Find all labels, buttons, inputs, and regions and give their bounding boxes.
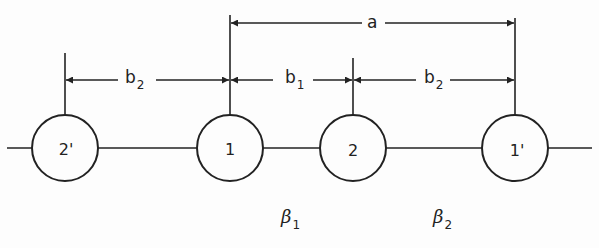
node-label-1prime: 1' [510, 141, 525, 160]
bond-label-beta1-sub: 1 [292, 218, 300, 232]
bond-label-beta2: β2 [433, 208, 452, 226]
chain-diagram: 2' 1 2 1' a b2 b1 b2 β1 β2 [0, 0, 599, 248]
node-label-2: 2 [348, 141, 358, 160]
dim-label-b2-left: b2 [125, 69, 144, 86]
dim-label-a: a [367, 14, 377, 31]
bond-label-beta2-sub: 2 [444, 218, 452, 232]
dim-label-b1-sub: 1 [297, 78, 305, 92]
node-label-1: 1 [225, 140, 235, 159]
node-label-2prime: 2' [59, 140, 74, 159]
bond-label-beta2-main: β [433, 206, 443, 227]
dim-label-b2-left-sub: 2 [137, 78, 145, 92]
dim-label-b2-left-main: b [125, 67, 136, 87]
dim-label-b1: b1 [285, 69, 304, 86]
bond-label-beta1-main: β [281, 206, 291, 227]
dim-label-b2-right: b2 [424, 69, 443, 86]
bond-label-beta1: β1 [281, 208, 300, 226]
dim-label-b2-right-main: b [424, 67, 435, 87]
dim-label-b1-main: b [285, 67, 296, 87]
dim-label-b2-right-sub: 2 [436, 78, 444, 92]
